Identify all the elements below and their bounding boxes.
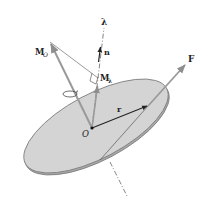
projection-line [50, 42, 98, 78]
label-MO-sub: O [43, 51, 48, 58]
label-Mlambda-sub: λ [108, 77, 112, 84]
label-lambda: λ [101, 17, 107, 27]
origin-point [90, 126, 93, 129]
label-F: F [188, 54, 195, 64]
moment-about-axis-diagram: λ n M O M λ F r O [0, 0, 205, 203]
label-Mlambda: M λ [100, 73, 112, 84]
label-n: n [104, 47, 110, 57]
unit-vector-n [99, 47, 101, 62]
lambda-axis-lower [110, 162, 127, 196]
label-MO: M O [35, 47, 48, 58]
disc [10, 60, 182, 194]
label-O: O [82, 129, 89, 139]
